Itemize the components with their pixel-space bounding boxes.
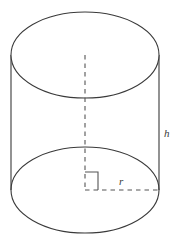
right-angle-marker-icon (85, 172, 98, 190)
cylinder-figure-svg: h r (0, 0, 180, 244)
cylinder-diagram: h r (0, 0, 180, 244)
radius-label: r (119, 175, 124, 187)
height-label: h (164, 127, 170, 139)
